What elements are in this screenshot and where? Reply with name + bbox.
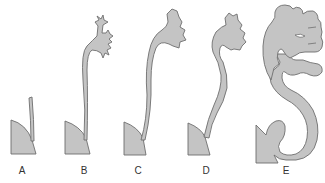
developmental-stages-diagram bbox=[0, 0, 325, 183]
stage-b-figure bbox=[65, 15, 113, 154]
stage-c-figure bbox=[124, 9, 186, 155]
stage-label-d: D bbox=[196, 166, 216, 176]
stage-label-a: A bbox=[12, 166, 32, 176]
stage-e-figure bbox=[256, 5, 323, 163]
stage-label-b: B bbox=[74, 166, 94, 176]
stage-label-e: E bbox=[276, 166, 296, 176]
stage-a-figure bbox=[11, 97, 36, 154]
stage-d-figure bbox=[188, 13, 246, 155]
stage-label-c: C bbox=[128, 166, 148, 176]
